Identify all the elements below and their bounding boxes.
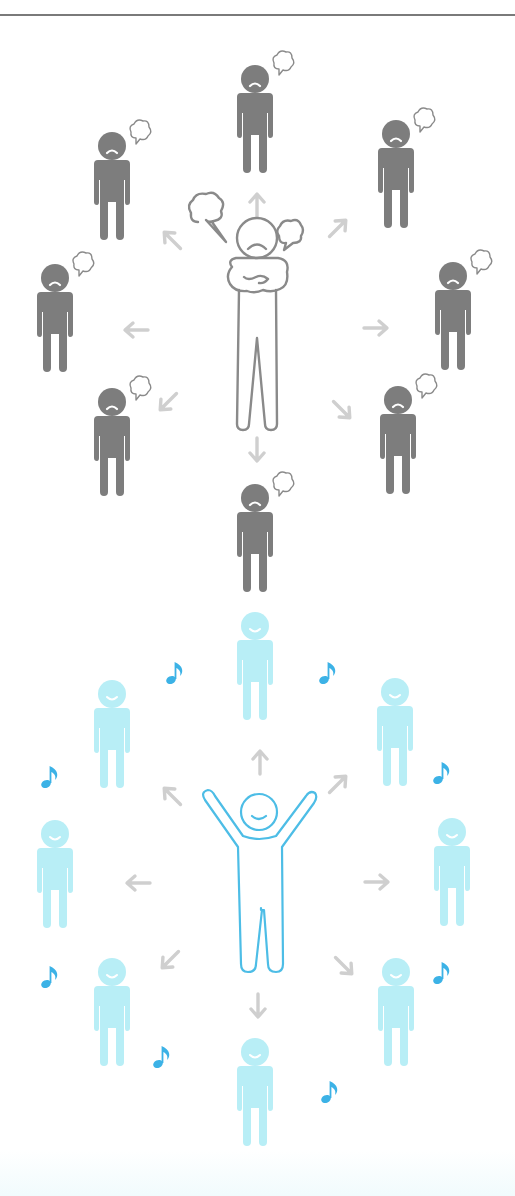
top-panel [37,51,492,592]
arrow-down-left-icon [155,389,181,415]
arrow-up-right-icon [325,771,351,797]
bottom-panel [37,612,470,1146]
music-note-icon [320,1081,337,1105]
arrow-down-icon [251,994,265,1017]
happy-person-lower-right [378,958,414,1066]
arrow-down-right-icon [331,953,357,979]
arrow-down-icon [250,438,264,461]
arrow-up-right-icon [325,215,351,241]
sad-person-upper-right [378,108,435,228]
illustration [0,0,515,1196]
happy-person-upper-right [377,678,413,786]
arrow-up-icon [250,194,264,217]
arrow-up-left-icon [159,783,185,809]
arrow-up-icon [253,751,267,774]
sad-person-mid-left [37,252,94,372]
happy-person-top [237,612,273,720]
music-note-icon [40,766,57,790]
music-note-icon [432,762,449,786]
happy-person-bottom [237,1038,273,1146]
angry-center-person [189,193,303,430]
sad-person-lower-left [94,376,151,496]
arrow-right-icon [365,875,388,889]
sad-person-mid-right [435,250,492,370]
arrow-down-right-icon [329,397,355,423]
music-note-icon [318,662,335,686]
arrow-left-icon [127,876,150,890]
sad-person-upper-left [94,120,151,240]
happy-center-person [203,790,316,972]
music-note-icon [152,1046,169,1070]
sad-person-bottom [237,472,294,592]
music-note-icon [432,962,449,986]
happy-person-upper-left [94,680,130,788]
arrow-up-left-icon [159,227,185,253]
arrow-right-icon [364,321,387,335]
happy-person-mid-right [434,818,470,926]
music-note-icon [40,966,57,990]
sad-person-lower-right [380,374,437,494]
music-note-icon [165,662,182,686]
sad-person-top [237,51,294,173]
happy-person-lower-left [94,958,130,1066]
arrow-left-icon [125,323,148,337]
happy-person-mid-left [37,820,73,928]
arrow-down-left-icon [157,947,183,973]
